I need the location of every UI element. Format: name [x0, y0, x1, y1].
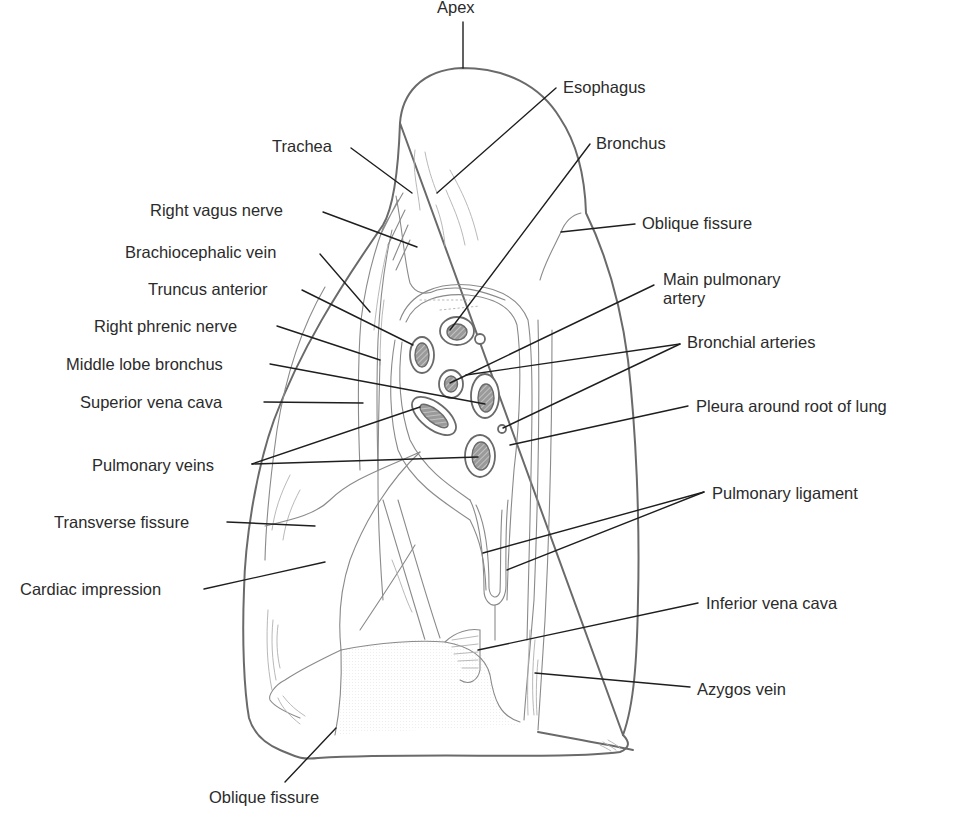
- leader-line-inferior-vena-cava: [478, 603, 698, 650]
- mediastinal-structures-upper: [382, 150, 581, 300]
- leader-line-pulmonary-ligament: [483, 492, 704, 553]
- label-truncus-anterior: Truncus anterior: [148, 280, 268, 299]
- label-main-pulmonary-artery-line1: Main pulmonary: [663, 270, 780, 289]
- hilum-vessels: [406, 300, 506, 477]
- label-pulmonary-veins: Pulmonary veins: [92, 456, 214, 475]
- label-apex: Apex: [437, 0, 475, 17]
- leader-line-trachea: [351, 148, 412, 193]
- label-pleura-around-root-of-lung: Pleura around root of lung: [696, 397, 887, 416]
- leader-line-transverse-fissure: [227, 522, 315, 526]
- leader-line-superior-vena-cava: [264, 402, 363, 403]
- truncus-anterior-lumen: [415, 343, 429, 367]
- label-right-phrenic-nerve: Right phrenic nerve: [94, 317, 237, 336]
- main-pulmonary-artery-lumen: [445, 376, 458, 392]
- label-azygos-vein: Azygos vein: [697, 680, 786, 699]
- label-middle-lobe-bronchus: Middle lobe bronchus: [66, 355, 223, 374]
- bronchus-lumen: [447, 324, 467, 340]
- inferior-pulmonary-vein-lumen: [472, 442, 490, 470]
- label-oblique-fissure-lower: Oblique fissure: [209, 788, 319, 807]
- label-cardiac-impression: Cardiac impression: [20, 580, 161, 599]
- leader-line-right-vagus-nerve: [323, 212, 417, 247]
- bronchial-artery-small-2: [498, 425, 506, 433]
- leader-line-esophagus: [437, 88, 556, 193]
- bronchial-artery-small: [475, 334, 485, 344]
- diaphragmatic-surface: [270, 630, 620, 752]
- label-main-pulmonary-artery: Main pulmonary artery: [663, 270, 780, 308]
- leader-line-right-phrenic-nerve: [277, 326, 380, 360]
- label-pulmonary-ligament: Pulmonary ligament: [712, 484, 858, 503]
- leader-line-pulmonary-veins: [252, 457, 478, 464]
- leader-line-oblique-fissure-upper: [561, 224, 635, 232]
- label-oblique-fissure-upper: Oblique fissure: [642, 214, 752, 233]
- label-inferior-vena-cava: Inferior vena cava: [706, 594, 837, 613]
- label-bronchus: Bronchus: [596, 134, 666, 153]
- label-esophagus: Esophagus: [563, 78, 646, 97]
- label-bronchial-arteries: Bronchial arteries: [687, 333, 815, 352]
- middle-lobe-bronchus-lumen: [478, 384, 494, 412]
- lung-diagram: Apex Esophagus Bronchus Trachea Oblique …: [0, 0, 953, 825]
- label-superior-vena-cava: Superior vena cava: [80, 393, 222, 412]
- label-main-pulmonary-artery-line2: artery: [663, 289, 780, 308]
- leader-line-azygos-vein: [535, 673, 690, 687]
- label-transverse-fissure: Transverse fissure: [54, 513, 189, 532]
- label-brachiocephalic-vein: Brachiocephalic vein: [125, 243, 276, 262]
- leader-line-bronchus: [450, 144, 590, 330]
- leader-line-cardiac-impression: [204, 562, 325, 589]
- superior-vena-cava-band: [358, 228, 392, 600]
- label-trachea: Trachea: [272, 137, 332, 156]
- label-right-vagus-nerve: Right vagus nerve: [150, 201, 283, 220]
